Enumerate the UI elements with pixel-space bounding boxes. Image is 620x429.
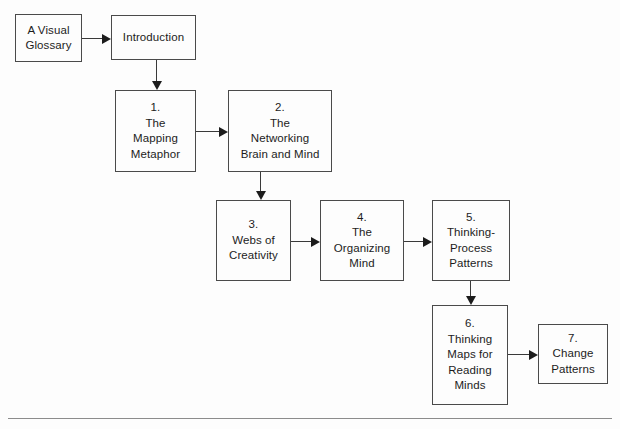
arrowhead-right-icon <box>423 237 432 247</box>
node-label-line: Patterns <box>551 362 595 378</box>
node-label-line: Reading <box>448 363 492 379</box>
node-introduction[interactable]: Introduction <box>111 15 196 60</box>
edge-line <box>404 241 424 242</box>
node-ch7[interactable]: 7.ChangePatterns <box>538 324 608 384</box>
node-label-line: 3. <box>249 217 259 233</box>
node-label-line: The <box>145 116 165 132</box>
node-ch5[interactable]: 5.Thinking-ProcessPatterns <box>432 200 510 281</box>
edge-line <box>291 241 312 242</box>
node-label-line: The <box>270 116 290 132</box>
node-label-line: Maps for <box>447 347 493 363</box>
arrowhead-right-icon <box>102 34 111 44</box>
node-label-line: Mapping <box>133 131 178 147</box>
node-label-line: The <box>352 225 372 241</box>
node-ch6[interactable]: 6.ThinkingMaps forReadingMinds <box>432 305 508 405</box>
node-label-line: Mind <box>349 256 374 272</box>
node-label-line: Patterns <box>449 256 493 272</box>
edge-line <box>156 60 157 82</box>
arrowhead-right-icon <box>529 350 538 360</box>
node-label-line: Networking <box>251 131 310 147</box>
arrowhead-down-icon <box>256 191 266 200</box>
arrowhead-right-icon <box>311 237 320 247</box>
node-label-line: Brain and Mind <box>241 147 320 163</box>
node-label-line: 1. <box>151 100 161 116</box>
node-label-line: 4. <box>357 210 367 226</box>
edge-line <box>260 172 261 192</box>
node-label-line: A Visual <box>27 23 69 39</box>
node-label-line: Glossary <box>25 38 71 54</box>
edge-line <box>196 131 220 132</box>
node-ch2[interactable]: 2.TheNetworkingBrain and Mind <box>228 90 332 172</box>
edge-line <box>82 38 103 39</box>
edge-line <box>470 281 471 297</box>
node-label-line: Thinking <box>448 332 492 348</box>
arrowhead-down-icon <box>466 296 476 305</box>
node-label-line: Introduction <box>123 30 184 46</box>
node-ch1[interactable]: 1.TheMappingMetaphor <box>115 90 196 172</box>
edge-line <box>508 354 530 355</box>
node-label-line: Organizing <box>334 241 391 257</box>
arrowhead-right-icon <box>219 127 228 137</box>
node-glossary[interactable]: A VisualGlossary <box>15 14 82 62</box>
node-label-line: Creativity <box>229 248 278 264</box>
diagram-canvas: A VisualGlossaryIntroduction1.TheMapping… <box>0 0 620 429</box>
node-label-line: Thinking- <box>447 225 495 241</box>
footer-rule <box>8 418 612 419</box>
node-label-line: 7. <box>568 331 578 347</box>
node-label-line: 5. <box>466 210 476 226</box>
node-label-line: 6. <box>465 316 475 332</box>
node-label-line: Webs of <box>232 233 275 249</box>
node-label-line: 2. <box>275 100 285 116</box>
node-label-line: Metaphor <box>131 147 180 163</box>
node-label-line: Process <box>450 241 492 257</box>
node-ch3[interactable]: 3.Webs ofCreativity <box>216 200 291 281</box>
node-label-line: Change <box>553 346 594 362</box>
node-ch4[interactable]: 4.TheOrganizingMind <box>320 200 404 281</box>
arrowhead-down-icon <box>152 81 162 90</box>
node-label-line: Minds <box>454 378 485 394</box>
